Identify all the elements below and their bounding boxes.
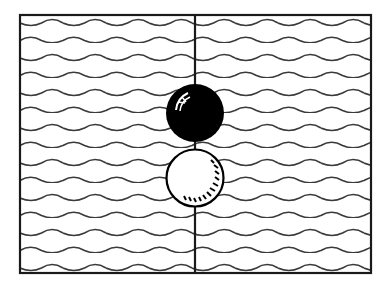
black-stone[interactable] — [166, 84, 224, 142]
white-stone[interactable] — [167, 150, 224, 207]
board-diagram — [0, 0, 389, 289]
